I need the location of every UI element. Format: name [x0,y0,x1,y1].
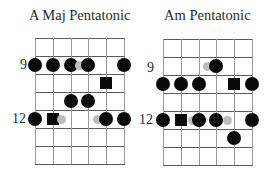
scale-note-marker [245,77,259,91]
fret-line [35,92,125,93]
diagram-title-a-major-pentatonic: A Maj Pentatonic [29,7,131,24]
scale-note-marker [64,94,78,108]
scale-note-marker [117,58,131,72]
fret-line [163,147,253,148]
scale-note-marker [156,113,170,127]
fret-line [35,38,125,39]
fret-line [163,111,253,112]
string-line [35,38,36,164]
string-line [199,39,200,165]
fret-line [35,164,125,165]
fret-line [35,146,125,147]
string-line [106,38,107,164]
fret-line [163,39,253,40]
fret-number-label: 12 [12,112,26,126]
string-line [181,39,182,165]
root-note-marker [100,77,112,89]
diagram-title-a-minor-pentatonic: Am Pentatonic [164,7,251,24]
passing-note-marker [57,115,66,124]
scale-note-marker [245,113,259,127]
scale-note-marker [46,58,60,72]
fret-line [163,129,253,130]
fret-line [163,165,253,166]
fret-line [35,56,125,57]
string-line [124,38,125,164]
passing-note-marker [223,116,232,125]
scale-note-marker [117,112,131,126]
scale-note-marker [192,113,206,127]
fret-line [35,110,125,111]
fret-line [163,93,253,94]
scale-note-marker [156,77,170,91]
scale-note-marker [28,58,42,72]
string-line [252,39,253,165]
fret-line [35,128,125,129]
root-note-marker [228,78,240,90]
scale-note-marker [192,77,206,91]
scale-note-marker [174,77,188,91]
fret-number-label: 12 [139,113,153,127]
fret-number-label: 9 [147,61,154,75]
fret-line [35,74,125,75]
fret-number-label: 9 [20,58,27,72]
string-line [234,39,235,165]
fret-line [163,75,253,76]
string-line [216,39,217,165]
string-line [53,38,54,164]
root-note-marker [175,114,187,126]
scale-note-marker [28,112,42,126]
string-line [163,39,164,165]
fret-line [163,57,253,58]
